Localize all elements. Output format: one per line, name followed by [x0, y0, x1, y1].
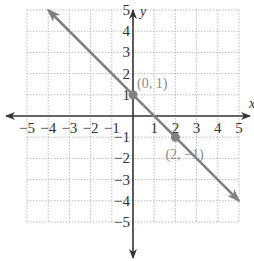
data-point: [129, 90, 138, 99]
coordinate-plane: yx−5−4−3−2−11234554321−1−2−3−4−5(0, 1)(2…: [0, 0, 254, 261]
x-tick-label: −3: [61, 120, 77, 136]
y-tick-label: −3: [114, 172, 130, 188]
x-tick-label: 5: [235, 120, 243, 136]
y-tick-label: 2: [123, 66, 131, 82]
x-tick-label: 4: [214, 120, 222, 136]
y-tick-label: 5: [123, 2, 131, 18]
y-tick-label: −2: [114, 150, 130, 166]
x-tick-label: −4: [40, 120, 56, 136]
data-point: [171, 133, 180, 142]
y-axis-label: y: [138, 4, 147, 19]
y-tick-label: 4: [123, 23, 131, 39]
y-tick-label: −1: [114, 129, 130, 145]
y-tick-label: −4: [114, 193, 130, 209]
x-tick-label: −2: [83, 120, 99, 136]
y-tick-label: 3: [123, 44, 131, 60]
x-tick-label: −5: [19, 120, 35, 136]
point-label: (2, −1): [165, 147, 204, 163]
x-tick-label: 3: [193, 120, 201, 136]
point-label: (0, 1): [137, 76, 168, 92]
x-tick-label: 1: [150, 120, 158, 136]
y-tick-label: −5: [114, 214, 130, 230]
x-axis-label: x: [248, 96, 254, 111]
